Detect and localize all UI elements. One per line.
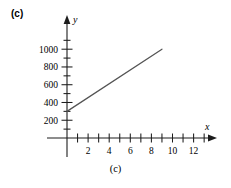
- x-axis-label: x: [204, 121, 210, 132]
- panel-label: (c): [11, 8, 23, 19]
- y-axis-arrow-icon: [64, 15, 71, 24]
- y-tick-label: 1000: [39, 45, 58, 55]
- graph-canvas: y x 2004006008001000 24681012: [0, 0, 231, 188]
- data-series-group: [67, 49, 162, 111]
- figure-panel-c: (c) y x 2004006008001000 24681012 (c): [0, 0, 231, 188]
- y-tick-label: 600: [44, 80, 59, 90]
- y-axis-label: y: [72, 14, 78, 25]
- x-axis-group: x: [47, 121, 217, 141]
- data-line-line: [67, 49, 162, 111]
- x-tick-label: 12: [189, 146, 199, 156]
- x-tick-label-group: 24681012: [86, 146, 199, 156]
- y-tick-label-group: 2004006008001000: [39, 45, 58, 126]
- figure-caption: (c): [0, 163, 231, 174]
- x-tick-label: 4: [107, 146, 112, 156]
- y-tick-label: 200: [44, 116, 59, 126]
- x-tick-label: 6: [128, 146, 133, 156]
- y-axis-group: y: [64, 14, 78, 157]
- x-tick-label: 8: [149, 146, 154, 156]
- y-tick-label: 400: [44, 98, 59, 108]
- x-axis-arrow-icon: [208, 135, 217, 142]
- x-tick-label: 2: [86, 146, 91, 156]
- x-tick-label: 10: [168, 146, 178, 156]
- y-tick-label: 800: [44, 62, 59, 72]
